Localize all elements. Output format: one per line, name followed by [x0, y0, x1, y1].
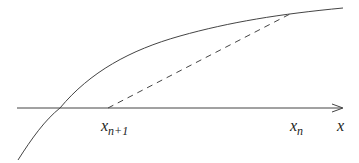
diagram-canvas	[0, 0, 359, 163]
function-curve	[18, 8, 343, 160]
label-subscript: n+1	[108, 124, 128, 138]
axis-label-x: x	[337, 118, 344, 134]
label-x-n-plus-1: xn+1	[101, 118, 128, 137]
label-subscript: n	[297, 124, 303, 138]
label-x-n: xn	[290, 118, 303, 137]
tangent-line	[108, 14, 290, 108]
